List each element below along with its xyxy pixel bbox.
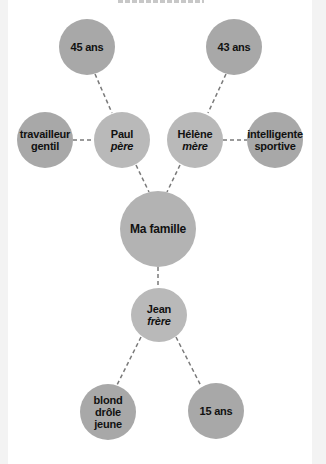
trait-label: drôle	[95, 406, 121, 418]
trait-label: intelligente	[247, 128, 303, 140]
node-jean-age: 15 ans	[188, 383, 244, 439]
trait-label: gentil	[31, 140, 59, 152]
link-jean-traits	[117, 337, 141, 385]
member-name: Hélène	[178, 128, 213, 140]
node-helene-age: 43 ans	[206, 19, 262, 75]
node-label: 45 ans	[70, 41, 103, 53]
node-helene-traits: intelligente sportive	[247, 112, 303, 168]
node-center-family: Ma famille	[120, 191, 196, 267]
member-role: mère	[182, 140, 208, 152]
node-paul: Paul père	[94, 112, 150, 168]
node-jean-traits: blond drôle jeune	[80, 384, 136, 440]
member-role: frère	[147, 315, 170, 327]
member-name: Paul	[111, 128, 133, 140]
node-paul-traits: travailleur gentil	[17, 112, 73, 168]
link-helene-age	[208, 74, 226, 113]
link-paul-center	[136, 165, 149, 192]
link-paul-age	[95, 74, 112, 113]
trait-label: sportive	[254, 140, 295, 152]
trait-label: blond	[94, 394, 123, 406]
node-paul-age: 45 ans	[59, 19, 115, 75]
link-jean-age	[176, 337, 201, 386]
link-helene-center	[167, 165, 180, 192]
member-role: père	[111, 140, 133, 152]
member-name: Jean	[147, 303, 171, 315]
node-jean: Jean frère	[131, 288, 187, 342]
trait-label: travailleur	[20, 128, 70, 140]
center-label: Ma famille	[130, 223, 186, 235]
trait-label: jeune	[94, 418, 122, 430]
node-label: 15 ans	[199, 405, 232, 417]
node-helene: Hélène mère	[167, 112, 223, 168]
node-label: 43 ans	[217, 41, 250, 53]
